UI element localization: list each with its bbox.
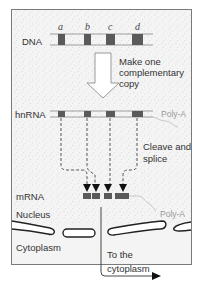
poly-a-bottom-label: Poly-A [160,209,185,220]
splice-step-line1: Cleave and [143,141,191,152]
nucleus-label: Nucleus [16,209,50,220]
gene-label-a: a [58,21,63,32]
gene-label-d: d [135,21,140,32]
dna-label: DNA [22,36,42,47]
cytoplasm-label: Cytoplasm [16,242,61,253]
copy-step-line2: complementary [119,67,184,78]
export-step-line2: cytoplasm [107,263,150,274]
poly-a-top-label: Poly-A [161,109,186,120]
splice-step-line2: splice [143,153,167,164]
gene-label-b: b [85,21,90,32]
export-step-line1: To the [107,249,133,260]
copy-step-line1: Make one [119,56,161,67]
mrna-label: mRNA [16,191,44,202]
copy-step-line3: copy [119,78,139,89]
hnrna-label: hnRNA [15,109,46,120]
gene-label-c: c [108,21,112,32]
